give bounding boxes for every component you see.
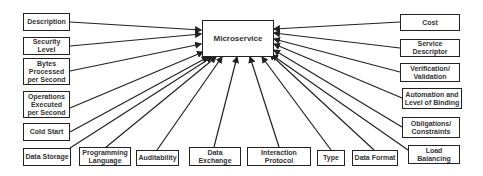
node-description: Description bbox=[23, 13, 70, 31]
node-operations-executed: Operations Executed per Second bbox=[23, 91, 70, 118]
node-type: Type bbox=[317, 150, 345, 166]
node-data-storage: Data Storage bbox=[23, 148, 71, 166]
node-service-descriptor: Service Descriptor bbox=[400, 39, 460, 57]
node-load-balancing: Load Balancing bbox=[408, 145, 460, 164]
node-data-format: Data Format bbox=[352, 150, 398, 166]
node-obligations-constraints: Obligations/ Constraints bbox=[402, 117, 460, 138]
node-cold-start: Cold Start bbox=[23, 123, 70, 141]
node-auditability: Auditability bbox=[136, 150, 179, 166]
microservice-node: Microservice bbox=[202, 20, 274, 57]
node-bytes-processed: Bytes Processed per Second bbox=[23, 58, 70, 85]
node-programming-language: Programming Language bbox=[79, 147, 131, 166]
node-automation-binding: Automation and Level of Binding bbox=[402, 88, 462, 109]
node-verification-validation: Verification/ Validation bbox=[400, 63, 460, 82]
node-cost: Cost bbox=[400, 14, 460, 31]
node-interaction-protocol: Interaction Protocol bbox=[247, 147, 311, 166]
node-security-level: Security Level bbox=[23, 37, 70, 55]
node-data-exchange: Data Exchange bbox=[189, 147, 241, 166]
